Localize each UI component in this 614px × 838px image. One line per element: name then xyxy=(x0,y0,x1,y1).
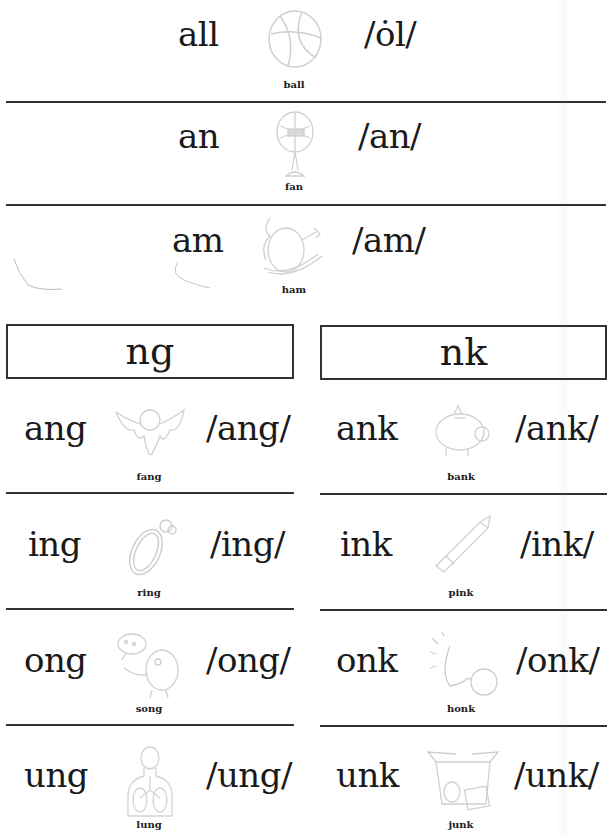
pronunciation-text: /ank/ xyxy=(515,408,598,448)
pronunciation-text: /unk/ xyxy=(514,755,599,795)
divider xyxy=(320,725,607,727)
divider xyxy=(320,493,607,495)
divider xyxy=(6,724,294,726)
section-header-ng: ng xyxy=(6,324,294,379)
word-label: junk xyxy=(421,819,501,831)
pattern-text: ung xyxy=(24,755,88,795)
pattern-text: ink xyxy=(340,524,392,564)
piggy-bank-icon xyxy=(432,402,494,460)
pattern-text: an xyxy=(178,116,219,156)
ring-icon xyxy=(120,516,182,578)
word-label: fan xyxy=(254,181,334,193)
pencil-mark xyxy=(10,255,70,295)
pattern-text: am xyxy=(172,220,224,260)
divider xyxy=(6,608,294,610)
pattern-text: ank xyxy=(336,408,397,448)
pattern-text: ang xyxy=(24,408,86,448)
divider xyxy=(6,204,606,206)
word-label: ham xyxy=(254,284,334,296)
word-label: ball xyxy=(254,79,334,91)
pattern-text: ing xyxy=(28,524,81,564)
word-label: ring xyxy=(109,587,189,599)
pattern-text: ong xyxy=(24,640,87,680)
singing-bird-icon xyxy=(112,630,184,700)
junk-box-icon xyxy=(426,748,500,818)
pronunciation-text: /an/ xyxy=(358,116,421,156)
pronunciation-text: /ink/ xyxy=(520,524,594,564)
word-label: song xyxy=(109,703,189,715)
pronunciation-text: /am/ xyxy=(352,220,425,260)
divider xyxy=(320,609,607,611)
pronunciation-text: /ȯl/ xyxy=(364,14,416,54)
divider xyxy=(6,101,606,103)
word-label: pink xyxy=(421,587,501,599)
pattern-text: all xyxy=(178,14,219,54)
pronunciation-text: /ung/ xyxy=(206,755,292,795)
lungs-icon xyxy=(124,746,176,818)
pronunciation-text: /ong/ xyxy=(206,640,291,680)
pronunciation-text: /ang/ xyxy=(206,408,290,448)
marker-icon xyxy=(432,514,494,574)
pronunciation-text: /ing/ xyxy=(210,524,285,564)
horn-icon xyxy=(428,632,502,702)
word-label: fang xyxy=(109,471,189,483)
bat-fang-icon xyxy=(114,402,186,460)
word-label: lung xyxy=(109,819,189,831)
pattern-text: unk xyxy=(336,755,399,795)
section-header-nk: nk xyxy=(320,325,607,380)
word-label: honk xyxy=(421,703,501,715)
pencil-mark xyxy=(168,260,218,292)
divider xyxy=(6,492,294,494)
word-label: bank xyxy=(421,471,501,483)
basketball-icon xyxy=(266,8,324,70)
pronunciation-text: /onk/ xyxy=(516,640,599,680)
fan-icon xyxy=(272,110,318,180)
pattern-text: onk xyxy=(336,640,397,680)
ham-icon xyxy=(258,216,330,278)
